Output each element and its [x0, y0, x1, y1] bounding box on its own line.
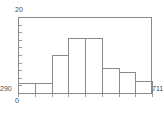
- bar: [135, 81, 153, 93]
- x-tick: [52, 94, 53, 97]
- bar: [119, 72, 137, 93]
- x-tick: [152, 94, 153, 97]
- y-axis-max-label: 20: [15, 6, 23, 14]
- x-tick: [119, 94, 120, 97]
- x-axis-max-label: 711: [152, 85, 164, 93]
- y-axis-min-label: 290: [0, 85, 12, 93]
- x-tick: [68, 94, 69, 97]
- x-tick: [102, 94, 103, 97]
- x-tick: [135, 94, 136, 97]
- x-axis-min-label: 0: [15, 97, 19, 105]
- bar: [18, 83, 36, 93]
- bar: [85, 38, 103, 93]
- x-tick: [85, 94, 86, 97]
- bar-series: [18, 17, 152, 93]
- bar: [52, 55, 70, 93]
- histogram-chart: 20 290 0 711: [0, 0, 164, 114]
- bar: [35, 83, 53, 93]
- bar: [68, 38, 86, 93]
- x-tick: [35, 94, 36, 97]
- bar: [102, 68, 120, 93]
